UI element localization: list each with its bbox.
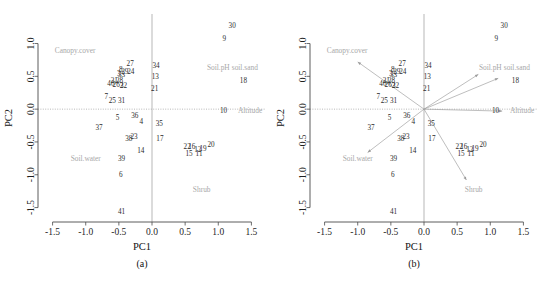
y-tick-label: 1.0 bbox=[298, 37, 308, 49]
y-tick-label: 1.0 bbox=[26, 37, 36, 49]
sample-point-label: 17 bbox=[156, 135, 164, 143]
sample-point-label: 4 bbox=[140, 118, 144, 126]
sample-point-label: 38 bbox=[125, 135, 133, 143]
panel-tag: (a) bbox=[136, 258, 147, 270]
variable-label: soil.sand bbox=[504, 63, 530, 72]
variable-label: Shrub bbox=[465, 185, 483, 194]
variable-label: Soil.water bbox=[343, 154, 374, 163]
sample-point-label: 4 bbox=[412, 118, 416, 126]
y-axis-title: PC2 bbox=[3, 109, 14, 127]
sample-point-label: 9 bbox=[494, 35, 498, 43]
x-tick-label: 1.5 bbox=[517, 227, 529, 237]
sample-point-label: 38 bbox=[397, 135, 405, 143]
x-tick-label: -0.5 bbox=[111, 227, 126, 237]
sample-point-label: 18 bbox=[512, 77, 520, 85]
arrow-head bbox=[475, 74, 479, 77]
sample-point-label: 39 bbox=[118, 155, 126, 163]
sample-point-label: 21 bbox=[423, 85, 431, 93]
arrow-head bbox=[495, 78, 499, 81]
sample-point-label: 30 bbox=[501, 22, 509, 30]
y-tick-label: -1.5 bbox=[26, 200, 36, 215]
y-axis-title: PC2 bbox=[275, 109, 286, 127]
sample-point-label: 20 bbox=[207, 141, 215, 149]
x-tick-label: -1.0 bbox=[350, 227, 365, 237]
variable-label: soil.sand bbox=[232, 63, 258, 72]
sample-point-label: 27 bbox=[399, 60, 407, 68]
sample-point-label: 10 bbox=[220, 107, 228, 115]
x-tick-label: 1.5 bbox=[245, 227, 257, 237]
sample-point-label: 31 bbox=[118, 97, 126, 105]
sample-point-label: 20 bbox=[479, 141, 487, 149]
sample-point-label: 41 bbox=[118, 208, 126, 216]
sample-point-label: 6 bbox=[119, 171, 123, 179]
x-tick-label: 1.0 bbox=[212, 227, 224, 237]
biplot-canvas-b: -1.5-1.0-0.50.00.51.0-1.5-1.0-0.50.00.51… bbox=[272, 0, 544, 281]
loading-arrow bbox=[368, 109, 424, 152]
arrow-head bbox=[499, 110, 502, 113]
y-tick-label: -1.5 bbox=[298, 200, 308, 215]
variable-label: Altitude bbox=[510, 106, 535, 115]
variable-label: Shrub bbox=[193, 185, 211, 194]
variable-label: Canopy.cover bbox=[55, 46, 96, 55]
biplot-canvas-a: -1.5-1.0-0.50.00.51.0-1.5-1.0-0.50.00.51… bbox=[0, 0, 272, 281]
x-tick-label: -0.5 bbox=[383, 227, 398, 237]
sample-point-label: 6 bbox=[391, 171, 395, 179]
sample-point-label: 21 bbox=[151, 85, 159, 93]
x-axis-title: PC1 bbox=[405, 241, 423, 252]
y-tick-label: -0.5 bbox=[298, 134, 308, 149]
x-tick-label: -1.5 bbox=[45, 227, 60, 237]
x-tick-label: 0.0 bbox=[418, 227, 430, 237]
sample-point-label: 10 bbox=[492, 107, 500, 115]
variable-label: Altitude bbox=[238, 106, 263, 115]
sample-point-label: 13 bbox=[424, 73, 432, 81]
sample-point-label: 9 bbox=[222, 35, 226, 43]
sample-point-label: 11 bbox=[196, 150, 203, 158]
y-tick-label: -0.5 bbox=[26, 134, 36, 149]
x-tick-label: 0.5 bbox=[179, 227, 191, 237]
sample-point-label: 15 bbox=[458, 150, 466, 158]
sample-point-label: 34 bbox=[152, 62, 160, 70]
sample-point-label: 34 bbox=[424, 62, 432, 70]
y-tick-label: -1.0 bbox=[298, 167, 308, 182]
y-tick-label: 0.0 bbox=[298, 103, 308, 115]
y-tick-label: 0.5 bbox=[26, 70, 36, 82]
sample-point-label: 37 bbox=[367, 124, 375, 132]
panel-b: -1.5-1.0-0.50.00.51.0-1.5-1.0-0.50.00.51… bbox=[272, 0, 544, 281]
variable-label: Soil.pH bbox=[479, 63, 502, 72]
sample-point-label: 31 bbox=[390, 97, 398, 105]
sample-point-label: 13 bbox=[152, 73, 160, 81]
sample-point-label: 25 bbox=[109, 97, 117, 105]
sample-point-label: 14 bbox=[137, 147, 145, 155]
x-axis-title: PC1 bbox=[133, 241, 151, 252]
sample-point-label: 39 bbox=[390, 155, 398, 163]
sample-point-label: 5 bbox=[388, 114, 392, 122]
panel-a: -1.5-1.0-0.50.00.51.0-1.5-1.0-0.50.00.51… bbox=[0, 0, 272, 281]
x-tick-label: 1.0 bbox=[484, 227, 496, 237]
sample-point-label: 24 bbox=[399, 68, 407, 76]
x-tick-label: 0.0 bbox=[146, 227, 158, 237]
x-tick-label: -1.0 bbox=[78, 227, 93, 237]
sample-point-label: 36 bbox=[403, 112, 411, 120]
loading-arrow bbox=[424, 78, 498, 109]
loading-arrow bbox=[424, 74, 478, 109]
sample-point-label: 35 bbox=[156, 120, 164, 128]
sample-point-label: 15 bbox=[186, 150, 194, 158]
sample-point-label: 37 bbox=[95, 124, 103, 132]
sample-point-label: 11 bbox=[468, 150, 475, 158]
y-tick-label: -1.0 bbox=[26, 167, 36, 182]
sample-point-label: 35 bbox=[428, 120, 436, 128]
sample-point-label: 2 bbox=[120, 82, 124, 90]
sample-point-label: 2 bbox=[392, 82, 396, 90]
sample-point-label: 27 bbox=[127, 60, 135, 68]
sample-point-label: 30 bbox=[229, 22, 237, 30]
arrow-head bbox=[358, 62, 362, 65]
sample-point-label: 5 bbox=[116, 114, 120, 122]
sample-point-label: 18 bbox=[240, 77, 248, 85]
y-tick-label: 0.5 bbox=[298, 70, 308, 82]
variable-label: Soil.water bbox=[71, 154, 102, 163]
sample-point-label: 41 bbox=[390, 208, 398, 216]
sample-point-label: 17 bbox=[428, 135, 436, 143]
y-tick-label: 0.0 bbox=[26, 103, 36, 115]
panel-tag: (b) bbox=[408, 258, 420, 270]
sample-point-label: 14 bbox=[409, 147, 417, 155]
